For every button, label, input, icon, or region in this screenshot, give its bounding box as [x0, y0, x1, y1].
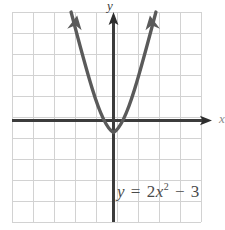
y-axis-label: y — [107, 0, 113, 14]
x-axis-label: x — [219, 111, 225, 127]
equation-constant: 3 — [191, 182, 200, 201]
equation-minus: − — [174, 182, 186, 201]
graph-figure: y x y = 2x2 − 3 — [0, 0, 225, 230]
equation-coefficient: 2 — [147, 182, 156, 201]
equation-variable: x — [156, 182, 164, 201]
equation-lhs: y — [117, 182, 125, 201]
equation-exponent: 2 — [164, 181, 170, 192]
equation-equals: = — [130, 182, 142, 201]
equation-annotation: y = 2x2 − 3 — [117, 182, 200, 202]
